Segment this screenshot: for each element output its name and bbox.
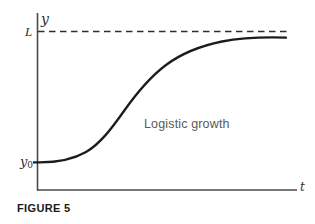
y-axis-label: y: [41, 12, 49, 26]
x-axis-label: t: [300, 181, 305, 193]
logistic-growth-chart: [0, 0, 315, 198]
logistic-curve: [38, 37, 286, 162]
initial-value-subscript: 0: [27, 160, 33, 170]
figure-page: y t L y0 Logistic growth FIGURE 5: [0, 0, 315, 224]
figure-caption: FIGURE 5: [17, 203, 71, 214]
asymptote-label: L: [25, 25, 32, 38]
curve-annotation-label: Logistic growth: [144, 118, 230, 131]
figure-plot-area: y t L y0 Logistic growth: [0, 0, 315, 198]
initial-value-label: y0: [20, 155, 33, 170]
